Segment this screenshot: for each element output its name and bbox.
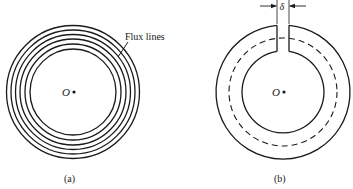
- center-label-b: O: [272, 86, 280, 98]
- center-point-b: [282, 90, 285, 93]
- center-label-a: O: [62, 86, 70, 98]
- center-point-a: [72, 90, 75, 93]
- caption-b: (b): [274, 173, 286, 185]
- figure-b: [216, 0, 350, 159]
- flux-lines-label: Flux lines: [125, 31, 165, 42]
- caption-a: (a): [64, 173, 75, 185]
- figure-canvas: O Flux lines (a) δ O (b): [0, 0, 353, 189]
- gap-arrowhead-left: [271, 4, 277, 8]
- gap-label-delta: δ: [280, 1, 285, 12]
- gap-arrowhead-right: [289, 4, 295, 8]
